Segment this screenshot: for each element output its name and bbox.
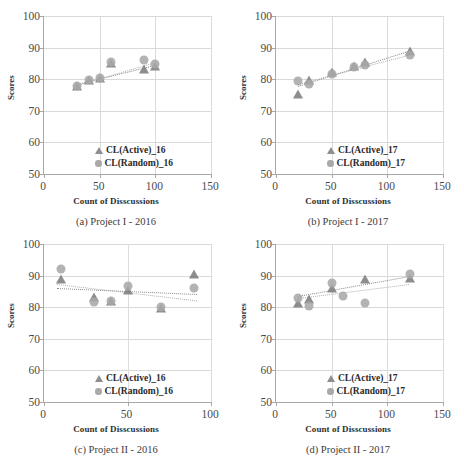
- y-tick-mark: [40, 142, 44, 143]
- x-tick-label: 50: [121, 408, 133, 420]
- y-tick-mark: [40, 111, 44, 112]
- x-tick-label: 50: [325, 408, 337, 420]
- triangle-marker-icon: [95, 375, 103, 382]
- gridline-vertical: [211, 16, 212, 174]
- legend-label: CL(Random)_16: [105, 158, 174, 168]
- x-axis-title: Count of Disscussions: [232, 196, 464, 206]
- x-tick-mark: [276, 174, 277, 178]
- gridline-horizontal: [276, 339, 443, 340]
- y-tick-label: 80: [246, 301, 272, 313]
- data-point-random: [349, 63, 358, 72]
- x-tick-label: 100: [378, 408, 395, 420]
- y-tick-mark: [272, 307, 276, 308]
- circle-marker-icon: [327, 160, 334, 167]
- data-point-random: [327, 278, 336, 287]
- gridline-vertical: [443, 16, 444, 174]
- y-tick-mark: [272, 48, 276, 49]
- y-tick-mark: [272, 244, 276, 245]
- x-tick-mark: [387, 402, 388, 406]
- x-tick-mark: [155, 174, 156, 178]
- data-point-active: [360, 274, 370, 283]
- gridline-horizontal: [276, 111, 443, 112]
- legend: CL(Active)_17CL(Random)_17: [327, 372, 405, 398]
- triangle-marker-icon: [95, 147, 103, 154]
- legend-item-random: CL(Random)_17: [327, 157, 405, 170]
- x-tick-label: 0: [40, 180, 46, 192]
- data-point-random: [84, 76, 93, 85]
- data-point-random: [106, 57, 115, 66]
- panel-caption: (c) Project II - 2016: [0, 444, 232, 455]
- legend-label: CL(Active)_17: [338, 373, 398, 383]
- y-tick-mark: [272, 16, 276, 17]
- x-tick-label: 100: [378, 180, 395, 192]
- x-tick-mark: [276, 402, 277, 406]
- y-tick-label: 70: [246, 333, 272, 345]
- legend-item-active: CL(Active)_16: [95, 144, 173, 157]
- data-point-active: [189, 270, 199, 279]
- data-point-active: [56, 275, 66, 284]
- x-axis-title: Count of Disscussions: [0, 196, 232, 206]
- panel-caption: (a) Project I - 2016: [0, 216, 232, 227]
- legend-label: CL(Active)_16: [106, 145, 166, 155]
- x-tick-label: 100: [201, 408, 218, 420]
- data-point-random: [156, 302, 165, 311]
- y-tick-label: 90: [246, 270, 272, 282]
- y-tick-label: 50: [14, 396, 40, 408]
- y-axis-ticks: 5060708090100: [246, 0, 272, 228]
- x-tick-mark: [387, 174, 388, 178]
- y-tick-label: 60: [14, 136, 40, 148]
- gridline-vertical: [443, 244, 444, 402]
- data-point-active: [293, 90, 303, 99]
- x-tick-mark: [128, 402, 129, 406]
- x-tick-mark: [44, 174, 45, 178]
- y-tick-label: 100: [14, 10, 40, 22]
- circle-marker-icon: [327, 388, 334, 395]
- y-tick-mark: [40, 16, 44, 17]
- gridline-horizontal: [44, 16, 211, 17]
- x-axis-title: Count of Disscussions: [0, 424, 232, 434]
- gridline-horizontal: [276, 48, 443, 49]
- y-tick-label: 80: [14, 301, 40, 313]
- triangle-marker-icon: [327, 375, 335, 382]
- data-point-random: [151, 60, 160, 69]
- gridline-vertical: [211, 244, 212, 402]
- panel-caption: (d) Project II - 2017: [232, 444, 464, 455]
- x-tick-mark: [211, 174, 212, 178]
- chart-panel-c: Scores5060708090100050100Count of Disscu…: [0, 228, 232, 456]
- triangle-marker-icon: [327, 147, 335, 154]
- legend-label: CL(Random)_17: [337, 386, 406, 396]
- y-tick-label: 100: [246, 238, 272, 250]
- y-tick-label: 60: [14, 364, 40, 376]
- gridline-horizontal: [44, 79, 211, 80]
- y-tick-label: 90: [14, 42, 40, 54]
- legend-item-active: CL(Active)_16: [95, 372, 173, 385]
- legend-item-active: CL(Active)_17: [327, 372, 405, 385]
- legend: CL(Active)_16CL(Random)_16: [95, 144, 173, 170]
- data-point-random: [405, 50, 414, 59]
- y-tick-label: 60: [246, 136, 272, 148]
- y-tick-label: 50: [14, 168, 40, 180]
- legend-item-active: CL(Active)_17: [327, 144, 405, 157]
- x-tick-mark: [44, 402, 45, 406]
- legend-label: CL(Random)_17: [337, 158, 406, 168]
- legend-label: CL(Random)_16: [105, 386, 174, 396]
- x-tick-mark: [211, 402, 212, 406]
- x-tick-label: 0: [272, 180, 278, 192]
- data-point-random: [327, 69, 336, 78]
- legend-item-random: CL(Random)_16: [95, 157, 173, 170]
- x-tick-label: 150: [433, 408, 450, 420]
- y-tick-label: 80: [246, 73, 272, 85]
- data-point-random: [294, 294, 303, 303]
- data-point-random: [106, 296, 115, 305]
- y-tick-mark: [272, 142, 276, 143]
- y-tick-mark: [272, 79, 276, 80]
- data-point-random: [305, 79, 314, 88]
- y-tick-label: 90: [14, 270, 40, 282]
- y-tick-label: 50: [246, 396, 272, 408]
- data-point-random: [294, 77, 303, 86]
- y-tick-label: 70: [14, 333, 40, 345]
- circle-marker-icon: [95, 160, 102, 167]
- y-tick-mark: [272, 111, 276, 112]
- y-tick-mark: [40, 48, 44, 49]
- y-tick-mark: [272, 370, 276, 371]
